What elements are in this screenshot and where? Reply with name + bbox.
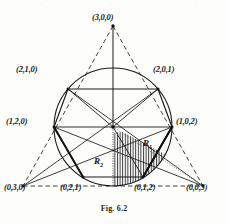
region-label-r1: R1 bbox=[143, 138, 152, 150]
vertex-label-021: (0,2,1) bbox=[60, 182, 81, 192]
vertex-label-210: (2,1,0) bbox=[16, 64, 37, 74]
figure-page: · · · bbox=[0, 0, 228, 224]
vertex-label-030: (0,3,0) bbox=[4, 182, 25, 192]
vertex-label-012: (0,1,2) bbox=[134, 182, 155, 192]
region-r1-sub: 1 bbox=[149, 144, 152, 150]
region-label-r2: R2 bbox=[94, 156, 103, 168]
vertex-label-201: (2,0,1) bbox=[153, 64, 174, 74]
vertex-label-003: (0,0,3) bbox=[186, 182, 207, 192]
vertex-label-102: (1,0,2) bbox=[176, 116, 197, 126]
region-r2-sub: 2 bbox=[100, 162, 103, 168]
vertex-label-120: (1,2,0) bbox=[6, 116, 27, 126]
figure-caption: Fig. 6.2 bbox=[0, 204, 228, 213]
vertex-label-300: (3,0,0) bbox=[92, 12, 113, 22]
